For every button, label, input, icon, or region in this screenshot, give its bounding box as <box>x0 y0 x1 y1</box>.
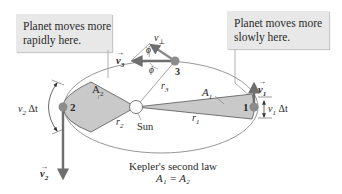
r1-label: r1 <box>192 112 199 126</box>
v1-vector-label: v1 <box>258 84 266 98</box>
sun <box>130 101 143 114</box>
sun-label: Sun <box>137 121 154 132</box>
planet-1 <box>250 103 259 112</box>
caption-title: Kepler's second law <box>118 160 228 172</box>
r2-label: r2 <box>116 116 124 130</box>
planet-1-label: 1 <box>243 101 249 113</box>
phi-upper-label: ϕ <box>146 45 151 55</box>
svg-text:→: → <box>116 48 124 57</box>
phi-lower-label: ϕ <box>149 65 154 75</box>
svg-text:→: → <box>40 162 48 171</box>
planet-2 <box>59 103 68 112</box>
r3-label: r3 <box>161 80 169 94</box>
v2-dt-label: v2 Δt <box>18 103 38 117</box>
planet-3 <box>171 57 180 66</box>
planet-3-label: 3 <box>175 66 180 77</box>
v-perp-label: v⊥ <box>154 32 165 46</box>
v2-dt-arc <box>49 83 58 131</box>
caption: Kepler's second law A₁ = A₂ <box>118 160 228 184</box>
caption-equation: A₁ = A₂ <box>118 172 228 184</box>
v1-dt-label: v1 Δt <box>268 103 288 117</box>
v3-vector-label: v3 <box>116 55 125 69</box>
svg-text:→: → <box>258 77 266 86</box>
planet-2-label: 2 <box>70 101 76 113</box>
